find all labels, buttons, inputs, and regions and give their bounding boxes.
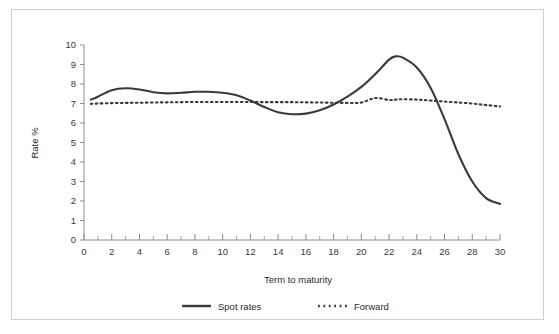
y-axis: 012345678910 [65, 39, 84, 245]
x-axis: 024681012141618202224262830 [81, 234, 505, 257]
y-tick-label: 5 [71, 137, 76, 148]
y-tick-label: 1 [71, 215, 76, 226]
x-tick-label: 4 [137, 246, 142, 257]
x-tick-label: 30 [495, 246, 506, 257]
x-tick-label: 12 [245, 246, 256, 257]
x-tick-label: 8 [192, 246, 197, 257]
y-axis-title: Rate % [29, 127, 40, 159]
x-tick-label: 20 [356, 246, 367, 257]
y-tick-label: 2 [71, 195, 76, 206]
y-tick-label: 9 [71, 59, 76, 70]
x-tick-label: 0 [81, 246, 86, 257]
x-tick-label: 6 [165, 246, 170, 257]
x-axis-title: Term to maturity [264, 274, 332, 285]
legend-label-spot-rates: Spot rates [218, 301, 262, 312]
x-tick-label: 14 [273, 246, 284, 257]
x-tick-label: 2 [109, 246, 114, 257]
y-tick-label: 8 [71, 78, 76, 89]
x-tick-label: 18 [328, 246, 339, 257]
series-line-spot [91, 56, 500, 204]
y-tick-label: 6 [71, 117, 76, 128]
x-tick-label: 16 [301, 246, 312, 257]
x-tick-label: 26 [439, 246, 450, 257]
x-tick-label: 28 [467, 246, 478, 257]
y-tick-label: 3 [71, 176, 76, 187]
line-chart: 012345678910 024681012141618202224262830… [0, 0, 559, 334]
y-tick-label: 7 [71, 98, 76, 109]
y-tick-label: 4 [71, 156, 76, 167]
series-paths [91, 56, 500, 204]
chart-figure: 012345678910 024681012141618202224262830… [0, 0, 559, 334]
legend-label-forward: Forward [354, 301, 389, 312]
x-tick-label: 22 [384, 246, 395, 257]
x-tick-label: 10 [217, 246, 228, 257]
y-tick-label: 10 [65, 39, 76, 50]
y-tick-label: 0 [71, 234, 76, 245]
chart-legend: Spot ratesForward [182, 301, 389, 312]
x-tick-label: 24 [412, 246, 423, 257]
